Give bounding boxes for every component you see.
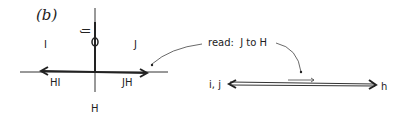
vertical-bottom-label: H [91,104,99,114]
right-arrow-label: JH [122,78,132,88]
diagram-graphics [0,0,405,122]
right-left-label: i, j [209,80,221,90]
jh-arrow [95,72,147,73]
annotation-curve-left [152,44,202,64]
hi-arrow [42,71,95,72]
double-line-bottom [230,85,375,86]
double-line-top [230,82,375,84]
right-right-label: h [381,82,387,92]
quadrant-left-label: I [44,40,47,50]
left-arrowhead [229,80,236,88]
right-arrowhead [369,80,376,89]
annotation-curve-right [276,43,301,72]
annotation-text: read: J to H [208,38,267,48]
vertical-top-label: IJ [80,28,90,34]
left-arrow-label: HI [50,78,60,88]
quadrant-right-label: J [134,40,137,50]
